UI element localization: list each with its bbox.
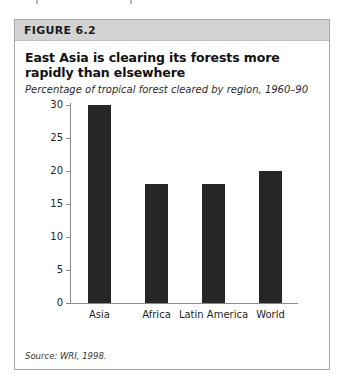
figure-container: FIGURE 6.2 East Asia is clearing its for… (14, 19, 330, 370)
y-axis-tick-mark (66, 105, 70, 106)
bar (202, 184, 225, 303)
figure-body: East Asia is clearing its forests more r… (15, 41, 329, 337)
y-axis-tick-label: 10 (50, 230, 63, 243)
y-axis-tick-mark (66, 204, 70, 205)
x-axis-line (70, 303, 298, 304)
cropped-text-artifact (0, 0, 345, 9)
y-axis-tick-label: 20 (50, 164, 63, 177)
y-axis-tick-label: 30 (50, 98, 63, 111)
y-axis-tick-label: 5 (57, 263, 63, 276)
y-axis-tick-label: 25 (50, 131, 63, 144)
bar (88, 105, 111, 303)
y-axis-tick-mark (66, 270, 70, 271)
bar-chart: 051015202530 AsiaAfricaLatin AmericaWorl… (25, 105, 319, 337)
plot-area (71, 105, 319, 303)
x-axis-label: World (211, 308, 331, 321)
y-axis-tick-label: 15 (50, 197, 63, 210)
bar (259, 171, 282, 303)
figure-source: Source: WRI, 1998. (25, 351, 107, 361)
figure-number-label: FIGURE 6.2 (24, 24, 96, 37)
y-axis-tick-mark (66, 303, 70, 304)
figure-title: East Asia is clearing its forests more r… (25, 50, 319, 80)
y-axis-tick-mark (66, 171, 70, 172)
figure-header-band: FIGURE 6.2 (15, 20, 329, 41)
figure-subtitle: Percentage of tropical forest cleared by… (25, 83, 319, 96)
y-axis-tick-mark (66, 237, 70, 238)
bar (145, 184, 168, 303)
y-axis-tick-mark (66, 138, 70, 139)
